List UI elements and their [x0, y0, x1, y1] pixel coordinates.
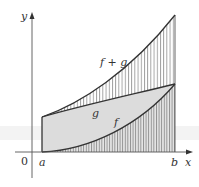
curve-label-f-plus-g: f + g [99, 56, 127, 69]
x-axis-arrow-icon [186, 150, 193, 155]
figure: y x 0 a b f + g g f [0, 0, 199, 187]
origin-label: 0 [21, 155, 28, 168]
interval-end-label: b [171, 156, 178, 169]
y-axis-label: y [20, 10, 28, 23]
curve-label-g: g [92, 107, 99, 120]
interval-start-label: a [39, 156, 46, 169]
x-axis-label: x [185, 156, 192, 169]
y-axis-arrow-icon [30, 12, 35, 19]
